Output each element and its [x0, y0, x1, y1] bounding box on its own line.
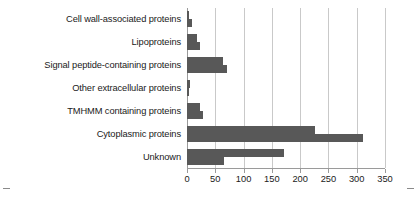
bar-group	[187, 54, 385, 77]
tick-label: 200	[292, 174, 308, 184]
bar-series-2-0	[187, 19, 192, 27]
bar-series-1-2	[187, 57, 223, 65]
category-label: TMHMM containing proteins	[0, 100, 186, 123]
bar-series-1-0	[187, 11, 189, 19]
tick-mark	[215, 169, 216, 173]
tick-mark	[385, 169, 386, 173]
tick-label: 300	[349, 174, 365, 184]
tick-mark	[244, 169, 245, 173]
bar-series-1-6	[187, 149, 284, 157]
category-label: Cell wall-associated proteins	[0, 8, 186, 31]
bar-group	[187, 8, 385, 31]
bar-group	[187, 99, 385, 122]
gridline	[385, 8, 386, 168]
category-label: Cytoplasmic proteins	[0, 123, 186, 146]
category-axis: Cell wall-associated proteins Lipoprotei…	[0, 8, 186, 169]
category-label: Unknown	[0, 146, 186, 169]
tick-label: 150	[264, 174, 280, 184]
corner-mark-left	[3, 188, 10, 189]
tick-mark	[328, 169, 329, 173]
tick-label: 0	[184, 174, 189, 184]
bar-series-2-4	[187, 111, 203, 119]
bar-series-2-3	[187, 88, 189, 96]
category-label: Signal peptide-containing proteins	[0, 54, 186, 77]
corner-mark-right	[407, 188, 414, 189]
bar-series-1-4	[187, 103, 200, 111]
tick-label: 250	[321, 174, 337, 184]
tick-mark	[357, 169, 358, 173]
plot-area	[187, 8, 385, 169]
tick-mark	[272, 169, 273, 173]
bar-series-2-5	[187, 134, 363, 142]
bar-series-1-1	[187, 34, 197, 42]
tick-mark	[300, 169, 301, 173]
bar-series-1-5	[187, 126, 315, 134]
bar-group	[187, 122, 385, 145]
bar-group	[187, 31, 385, 54]
bar-chart: Cell wall-associated proteins Lipoprotei…	[0, 0, 417, 201]
tick-label: 350	[377, 174, 393, 184]
bar-group	[187, 77, 385, 100]
bar-series-2-1	[187, 42, 200, 50]
tick-mark	[187, 169, 188, 173]
bar-series-2-2	[187, 65, 227, 73]
category-label: Other extracellular proteins	[0, 77, 186, 100]
bar-group	[187, 145, 385, 168]
tick-label: 100	[236, 174, 252, 184]
bar-series-2-6	[187, 157, 224, 165]
bars-layer	[187, 8, 385, 168]
bar-series-1-3	[187, 80, 190, 88]
value-axis: 050100150200250300350	[187, 169, 385, 193]
category-label: Lipoproteins	[0, 31, 186, 54]
tick-label: 50	[210, 174, 220, 184]
